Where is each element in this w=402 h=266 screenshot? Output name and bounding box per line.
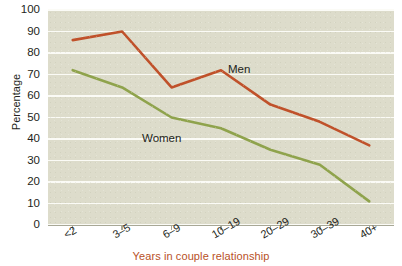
series-label-women: Women bbox=[142, 133, 181, 145]
line-series-women bbox=[73, 70, 370, 201]
y-axis-tick-label: 90 bbox=[0, 26, 40, 38]
y-axis-tick-label: 30 bbox=[0, 155, 40, 167]
y-axis-tick-label: 10 bbox=[0, 198, 40, 210]
y-axis-title: Percentage bbox=[10, 57, 22, 147]
y-axis-tick-label: 20 bbox=[0, 176, 40, 188]
series-label-men: Men bbox=[228, 64, 250, 76]
x-axis-tick-label: <2 bbox=[62, 225, 78, 241]
chart-figure: 0102030405060708090100 Percentage <23–56… bbox=[0, 0, 402, 266]
y-axis-tick-label: 100 bbox=[0, 4, 40, 16]
plot-area bbox=[48, 10, 394, 225]
series-lines bbox=[48, 10, 394, 225]
x-axis-title: Years in couple relationship bbox=[0, 250, 402, 262]
y-axis-ticks: 0102030405060708090100 bbox=[0, 10, 44, 225]
y-axis-tick-label: 0 bbox=[0, 219, 40, 231]
